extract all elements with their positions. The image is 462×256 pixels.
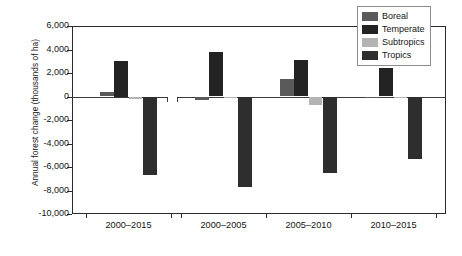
legend-swatch-icon — [362, 38, 378, 47]
bar — [280, 79, 294, 96]
bar — [129, 97, 143, 99]
legend-item[interactable]: Temperate — [362, 23, 425, 36]
y-axis-tick-label: 0 — [64, 91, 69, 101]
axis-break-tick — [177, 97, 178, 102]
bar — [323, 97, 337, 173]
y-axis-tick-label: -4,000 — [43, 138, 69, 148]
legend-item-label: Temperate — [382, 25, 425, 34]
bar — [100, 92, 114, 96]
x-axis-group-label: 2010–2015 — [371, 220, 417, 230]
legend-item-label: Tropics — [382, 51, 411, 60]
y-axis-tick-label: 4,000 — [46, 44, 69, 54]
legend-swatch-icon — [362, 12, 378, 21]
x-axis-tick-mark — [86, 214, 87, 218]
y-axis-tick-label: -10,000 — [38, 208, 69, 218]
legend-item-label: Boreal — [382, 12, 408, 21]
legend-item[interactable]: Boreal — [362, 10, 425, 23]
legend-item-label: Subtropics — [382, 38, 425, 47]
plot-right-border — [445, 26, 446, 214]
bar — [114, 61, 128, 96]
bar — [294, 60, 308, 96]
bar — [408, 97, 422, 159]
y-axis-tick-label: -6,000 — [43, 161, 69, 171]
bar — [394, 97, 408, 99]
y-axis-tick-label: -8,000 — [43, 185, 69, 195]
legend-item[interactable]: Subtropics — [362, 36, 425, 49]
x-axis-tick-mark — [436, 214, 437, 218]
bar — [309, 97, 323, 106]
x-axis-group-label: 2000–2005 — [201, 220, 247, 230]
x-axis-group-label: 2005–2010 — [286, 220, 332, 230]
bar — [238, 97, 252, 187]
bar — [365, 97, 379, 98]
x-axis-tick-mark — [351, 214, 352, 218]
y-axis-tick-label: 6,000 — [46, 20, 69, 30]
y-axis-title: Annual forest change (thousands of ha) — [31, 8, 40, 218]
bar — [195, 97, 209, 101]
bar — [209, 52, 223, 97]
y-axis-tick-label: -2,000 — [43, 114, 69, 124]
x-axis-tick-mark — [171, 214, 172, 218]
y-axis-line — [72, 26, 73, 214]
legend-swatch-icon — [362, 51, 378, 60]
y-axis-tick-label: 2,000 — [46, 67, 69, 77]
x-axis-tick-mark — [181, 214, 182, 218]
axis-break-tick — [167, 97, 168, 102]
legend-swatch-icon — [362, 25, 378, 34]
x-axis-tick-mark — [266, 214, 267, 218]
x-axis-line — [72, 213, 446, 214]
bar — [143, 97, 157, 176]
x-axis-group-label: 2000–2015 — [106, 220, 152, 230]
legend-item[interactable]: Tropics — [362, 49, 425, 62]
bar — [224, 97, 238, 98]
bar — [379, 68, 393, 96]
chart-legend: BorealTemperateSubtropicsTropics — [357, 6, 431, 66]
forest-change-bar-chart: Annual forest change (thousands of ha) 6… — [0, 0, 462, 256]
